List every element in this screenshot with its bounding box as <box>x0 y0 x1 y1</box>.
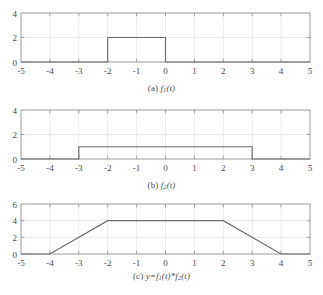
xtick-label: -4 <box>46 258 54 268</box>
xtick-label: 4 <box>279 258 284 268</box>
xtick-label: 1 <box>192 163 197 173</box>
plot-a-ytick-labels: 0 2 4 <box>13 9 18 68</box>
ytick-label: 2 <box>13 33 18 43</box>
plot-b-xtick-labels: -5 -4 -3 -2 -1 0 1 2 3 4 5 <box>17 163 313 173</box>
caption-arg: (t) <box>167 180 176 190</box>
ytick-label: 2 <box>13 130 18 140</box>
xtick-label: -4 <box>46 66 54 76</box>
plot-b-caption: (b) f2(t) <box>0 180 323 190</box>
xtick-label: -1 <box>133 163 141 173</box>
xtick-label: -1 <box>133 258 141 268</box>
plot-a-caption: (a) f1(t) <box>0 83 323 93</box>
caption-prefix: (b) <box>148 180 159 190</box>
plot-b-gridlines <box>21 110 310 159</box>
xtick-label: -3 <box>75 258 83 268</box>
xtick-label: 0 <box>163 258 168 268</box>
xtick-label: 0 <box>163 66 168 76</box>
xtick-label: 3 <box>250 66 255 76</box>
xtick-label: 2 <box>221 66 226 76</box>
ytick-label: 2 <box>13 233 18 243</box>
ytick-label: 6 <box>13 200 18 210</box>
xtick-label: -5 <box>17 258 25 268</box>
xtick-label: 2 <box>221 258 226 268</box>
xtick-label: 5 <box>308 258 313 268</box>
caption-expression: y=f1(t)*f2(t) <box>146 271 190 281</box>
plot-b-ytick-labels: 0 2 4 <box>13 106 18 165</box>
plot-b-svg: 0 2 4 -5 -4 -3 -2 -1 0 1 2 3 4 5 <box>0 97 323 177</box>
ytick-label: 4 <box>13 9 18 19</box>
xtick-label: -5 <box>17 163 25 173</box>
plot-c-gridlines <box>21 204 310 254</box>
plot-panel-c: 0 2 4 6 -5 -4 -3 -2 -1 0 1 2 3 4 5 (c) y… <box>0 192 323 295</box>
xtick-label: 1 <box>192 258 197 268</box>
plot-panel-b: 0 2 4 -5 -4 -3 -2 -1 0 1 2 3 4 5 (b) f2(… <box>0 97 323 192</box>
xtick-label: 5 <box>308 163 313 173</box>
xtick-label: -1 <box>133 66 141 76</box>
xtick-label: -2 <box>104 66 112 76</box>
plot-c-xtick-labels: -5 -4 -3 -2 -1 0 1 2 3 4 5 <box>17 258 313 268</box>
xtick-label: -2 <box>104 163 112 173</box>
caption-prefix: (c) <box>133 271 143 281</box>
ytick-label: 4 <box>13 106 18 116</box>
plot-c-ytick-labels: 0 2 4 6 <box>13 200 18 260</box>
xtick-label: 3 <box>250 258 255 268</box>
xtick-label: 0 <box>163 163 168 173</box>
xtick-label: 3 <box>250 163 255 173</box>
plot-a-xtick-labels: -5 -4 -3 -2 -1 0 1 2 3 4 5 <box>17 66 313 76</box>
convolution-figure: 0 2 4 -5 -4 -3 -2 -1 0 1 2 3 4 5 (a) f1(… <box>0 0 323 295</box>
xtick-label: 4 <box>279 66 284 76</box>
ytick-label: 4 <box>13 216 18 226</box>
caption-prefix: (a) <box>148 83 158 93</box>
plot-panel-a: 0 2 4 -5 -4 -3 -2 -1 0 1 2 3 4 5 (a) f1(… <box>0 0 323 95</box>
caption-arg: (t) <box>166 83 175 93</box>
plot-a-svg: 0 2 4 -5 -4 -3 -2 -1 0 1 2 3 4 5 <box>0 0 323 80</box>
plot-c-caption: (c) y=f1(t)*f2(t) <box>0 271 323 281</box>
plot-a-curve <box>21 38 310 63</box>
xtick-label: -3 <box>75 66 83 76</box>
xtick-label: -4 <box>46 163 54 173</box>
plot-c-svg: 0 2 4 6 -5 -4 -3 -2 -1 0 1 2 3 4 5 <box>0 192 323 270</box>
xtick-label: 1 <box>192 66 197 76</box>
caption-expression-text: y=f <box>146 271 159 281</box>
xtick-label: -2 <box>104 258 112 268</box>
xtick-label: 2 <box>221 163 226 173</box>
xtick-label: 4 <box>279 163 284 173</box>
xtick-label: -3 <box>75 163 83 173</box>
xtick-label: -5 <box>17 66 25 76</box>
xtick-label: 5 <box>308 66 313 76</box>
